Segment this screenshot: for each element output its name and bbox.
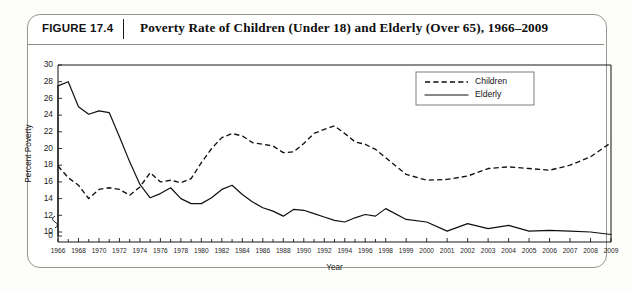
y-axis-title: Percent Poverty: [24, 123, 33, 182]
x-axis-title: Year: [326, 263, 343, 272]
svg-text:1986: 1986: [255, 247, 270, 254]
svg-text:1992: 1992: [317, 247, 332, 254]
svg-text:1996: 1996: [358, 247, 373, 254]
svg-text:2002: 2002: [460, 247, 475, 254]
svg-text:14: 14: [44, 193, 54, 203]
svg-text:1976: 1976: [153, 247, 168, 254]
svg-text:2007: 2007: [563, 247, 578, 254]
svg-text:2003: 2003: [481, 247, 496, 254]
svg-text:20: 20: [44, 143, 54, 153]
svg-text:1972: 1972: [112, 247, 127, 254]
svg-text:22: 22: [44, 126, 54, 136]
svg-text:2005: 2005: [522, 247, 537, 254]
svg-text:12: 12: [44, 210, 54, 220]
figure-page: FIGURE 17.4 Poverty Rate of Children (Un…: [0, 0, 632, 290]
svg-text:2009: 2009: [604, 247, 619, 254]
svg-text:1994: 1994: [337, 247, 352, 254]
svg-text:28: 28: [44, 76, 54, 86]
svg-text:1978: 1978: [174, 247, 189, 254]
svg-text:1982: 1982: [215, 247, 230, 254]
svg-text:2000: 2000: [419, 247, 434, 254]
legend-label-elderly: Elderly: [475, 89, 502, 99]
svg-text:1980: 1980: [194, 247, 209, 254]
y-tick-labels: 01012141618202224262830: [44, 59, 62, 240]
series-children: [58, 126, 611, 199]
svg-text:1990: 1990: [296, 247, 311, 254]
svg-text:16: 16: [44, 176, 54, 186]
svg-text:1984: 1984: [235, 247, 250, 254]
svg-text:30: 30: [44, 59, 54, 69]
chart-legend[interactable]: ChildrenElderly: [416, 72, 534, 105]
svg-text:1970: 1970: [92, 247, 107, 254]
svg-text:1974: 1974: [133, 247, 148, 254]
svg-text:1999: 1999: [399, 247, 414, 254]
x-tick-labels: 1966196819701972197419761978198019821984…: [51, 238, 619, 254]
svg-text:26: 26: [44, 93, 54, 103]
svg-text:1988: 1988: [276, 247, 291, 254]
svg-text:2001: 2001: [440, 247, 455, 254]
svg-text:18: 18: [44, 159, 54, 169]
svg-text:2006: 2006: [542, 247, 557, 254]
svg-text:24: 24: [44, 109, 54, 119]
legend-label-children: Children: [475, 76, 507, 86]
poverty-rate-line-chart: 01012141618202224262830 1966196819701972…: [0, 0, 632, 290]
svg-text:1968: 1968: [71, 247, 86, 254]
svg-text:2008: 2008: [583, 247, 598, 254]
chart-area: 01012141618202224262830 1966196819701972…: [0, 0, 632, 290]
svg-text:1966: 1966: [51, 247, 66, 254]
svg-text:1998: 1998: [378, 247, 393, 254]
svg-text:10: 10: [44, 226, 54, 236]
svg-text:2004: 2004: [501, 247, 516, 254]
